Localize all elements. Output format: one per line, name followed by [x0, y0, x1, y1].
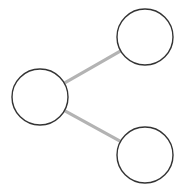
tree-diagram: [0, 0, 187, 190]
node-root: [12, 69, 68, 125]
edge-root-child-top: [64, 51, 120, 83]
nodes: [12, 9, 173, 183]
edge-root-child-bottom: [65, 111, 121, 142]
node-child-top: [117, 9, 173, 65]
edges: [64, 51, 120, 142]
node-child-bottom: [117, 127, 173, 183]
